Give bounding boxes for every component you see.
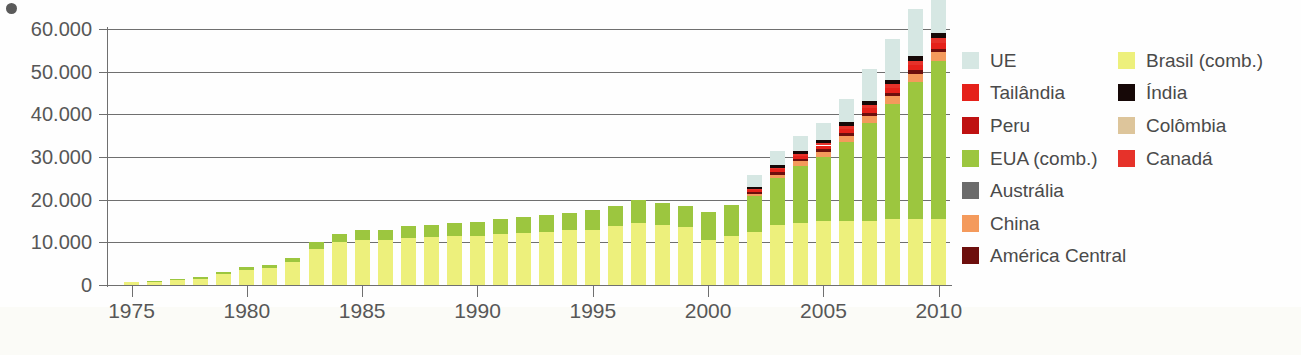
y-axis-tick-labels: 010.00020.00030.00040.00050.00060.000 <box>14 0 92 355</box>
y-axis-tick-label: 0 <box>16 275 92 295</box>
bar-segment <box>931 219 946 285</box>
bar-segment <box>770 168 785 170</box>
bar-segment <box>816 146 831 150</box>
bar-segment <box>770 165 785 168</box>
x-axis-tick-mark <box>132 286 133 297</box>
bar-segment <box>862 105 877 108</box>
bar-segment <box>424 225 439 237</box>
bar-segment <box>724 236 739 285</box>
bar-segment <box>239 270 254 285</box>
legend-item[interactable]: Peru <box>962 109 1122 142</box>
bar-segment <box>770 169 785 172</box>
bar-segment <box>262 268 277 285</box>
bar-segment <box>655 203 670 225</box>
bar-segment <box>770 151 785 166</box>
bar-stack <box>239 267 254 285</box>
bar-segment <box>724 205 739 236</box>
y-axis-tick-label: 30.000 <box>16 147 92 167</box>
bar-segment <box>262 265 277 268</box>
bar-segment <box>931 0 946 33</box>
x-axis-tick-mark <box>823 286 824 297</box>
bar-segment <box>816 140 831 143</box>
x-axis-tick-label: 2010 <box>915 300 962 321</box>
bar-segment <box>908 65 923 71</box>
legend-item[interactable]: Tailândia <box>962 77 1122 110</box>
bar-segment <box>862 108 877 113</box>
bar-segment <box>862 116 877 123</box>
bar-segment <box>862 101 877 105</box>
gridline <box>107 29 950 30</box>
legend-item[interactable]: Canadá <box>1118 142 1298 175</box>
bar-stack <box>885 39 900 285</box>
legend-item[interactable]: China <box>962 207 1122 240</box>
legend-item[interactable]: Índia <box>1118 77 1298 110</box>
legend-item-label: Canadá <box>1146 149 1213 168</box>
y-axis-tick-mark <box>99 157 108 158</box>
legend-item[interactable]: Colômbia <box>1118 109 1298 142</box>
bar-stack <box>355 230 370 285</box>
bar-segment <box>747 192 762 194</box>
bar-segment <box>401 226 416 238</box>
bar-segment <box>747 187 762 189</box>
legend-color-swatch <box>962 52 979 69</box>
bar-segment <box>493 219 508 234</box>
bar-segment <box>562 230 577 285</box>
bar-stack <box>562 213 577 285</box>
bar-stack <box>539 215 554 285</box>
y-axis-tick-mark <box>99 242 108 243</box>
y-axis-tick-label: 50.000 <box>16 62 92 82</box>
bar-segment <box>309 242 324 248</box>
bar-segment <box>839 142 854 221</box>
legend-item-label: América Central <box>990 246 1126 265</box>
bar-stack <box>124 282 139 285</box>
legend-color-swatch <box>962 150 979 167</box>
bar-segment <box>908 9 923 56</box>
bar-segment <box>470 222 485 236</box>
legend-color-swatch <box>1118 117 1135 134</box>
bar-segment <box>908 70 923 73</box>
legend-item[interactable]: Austrália <box>962 174 1122 207</box>
bar-segment <box>839 129 854 133</box>
legend-color-swatch <box>962 182 979 199</box>
bar-segment <box>839 136 854 142</box>
bar-segment <box>816 221 831 285</box>
bar-segment <box>585 230 600 285</box>
legend-color-swatch <box>1118 84 1135 101</box>
bar-segment <box>793 159 808 161</box>
x-axis-tick-mark <box>939 286 940 297</box>
legend-item[interactable]: América Central <box>962 240 1122 273</box>
legend-item[interactable]: UE <box>962 44 1122 77</box>
x-axis-tick-label: 1995 <box>569 300 616 321</box>
bar-stack <box>585 210 600 285</box>
bar-segment <box>147 281 162 282</box>
bar-segment <box>862 69 877 101</box>
x-axis-tick-mark <box>247 286 248 297</box>
bar-segment <box>332 242 347 285</box>
bar-stack <box>470 222 485 285</box>
legend-item[interactable]: EUA (comb.) <box>962 142 1122 175</box>
bar-segment <box>239 267 254 270</box>
bar-segment <box>931 38 946 42</box>
bar-segment <box>562 213 577 230</box>
bar-segment <box>493 234 508 285</box>
bar-stack <box>285 258 300 285</box>
bar-segment <box>701 240 716 285</box>
bar-segment <box>585 210 600 229</box>
bar-segment <box>516 233 531 285</box>
bar-stack <box>724 205 739 285</box>
bar-segment <box>401 238 416 285</box>
bar-segment <box>839 133 854 136</box>
legend-item[interactable]: Brasil (comb.) <box>1118 44 1298 77</box>
bar-segment <box>378 230 393 241</box>
bar-segment <box>908 82 923 219</box>
bar-segment <box>839 99 854 122</box>
bar-stack <box>493 219 508 285</box>
bar-segment <box>285 262 300 285</box>
bar-segment <box>193 277 208 279</box>
legend-item-label: China <box>990 214 1040 233</box>
bar-segment <box>355 230 370 241</box>
bar-segment <box>793 161 808 165</box>
bar-segment <box>931 43 946 49</box>
bar-segment <box>885 96 900 104</box>
bar-segment <box>862 221 877 285</box>
